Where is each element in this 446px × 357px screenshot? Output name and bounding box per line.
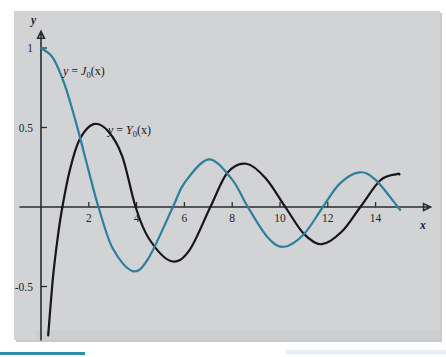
footer-accent-bar-left: [0, 352, 85, 355]
j0-label-arg: (x): [91, 64, 105, 78]
y-axis-label: y: [29, 14, 37, 27]
x-tick-label: 6: [182, 212, 188, 224]
j0-label-eq: =: [68, 64, 81, 78]
y-axis-tick-labels: 10.5-0.5: [15, 42, 33, 293]
y-axis-ticks: [41, 48, 47, 287]
x-tick-label: 8: [229, 212, 235, 224]
y-axis-line: [38, 31, 45, 340]
x-tick-label: 2: [86, 212, 92, 224]
x-axis-label: x: [419, 219, 426, 231]
bessel-function-plot: 2468101214 10.5-0.5 x y y = J0(x) y = Y0…: [0, 0, 446, 357]
x-axis-tick-labels: 2468101214: [86, 212, 382, 224]
x-tick-label: 12: [322, 212, 334, 224]
y0-label-arg: (x): [137, 123, 151, 137]
curve-label-j0: y = J0(x): [62, 64, 105, 80]
y-tick-label: 1: [27, 42, 33, 54]
y-tick-label: 0.5: [19, 122, 34, 134]
curve-label-y0: y = Y0(x): [107, 123, 151, 139]
figure-stage: 2468101214 10.5-0.5 x y y = J0(x) y = Y0…: [0, 0, 446, 357]
x-axis-line: [19, 204, 430, 211]
y-tick-label: -0.5: [15, 281, 33, 293]
curve-j0-bessel-first-kind: [41, 48, 400, 271]
x-tick-label: 14: [370, 212, 382, 224]
curve-y0-bessel-second-kind: [48, 124, 399, 336]
footer-accent-bar-right: [286, 350, 446, 354]
curves-group: [41, 48, 400, 335]
y0-label-eq: =: [113, 123, 126, 137]
x-tick-label: 10: [274, 212, 286, 224]
